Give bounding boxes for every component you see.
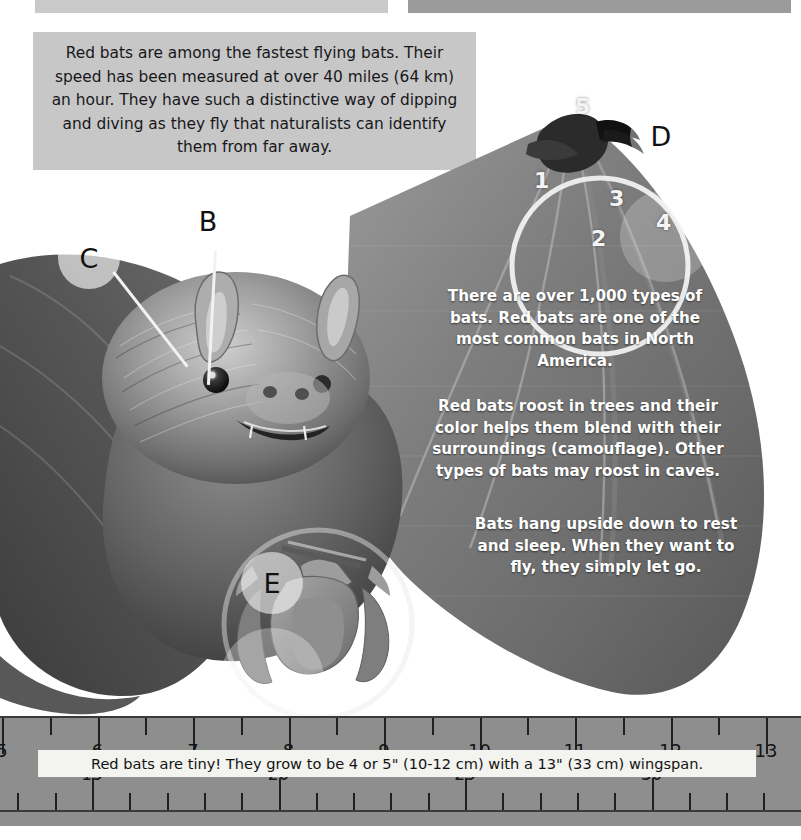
ruler-top-edge bbox=[0, 716, 801, 718]
ruler-inch-minor-tick bbox=[527, 718, 529, 735]
ruler-caption-text: Red bats are tiny! They grow to be 4 or … bbox=[91, 755, 703, 772]
ruler-inch-minor-tick bbox=[718, 718, 720, 735]
ruler-inch-label: 5 bbox=[0, 740, 8, 761]
ruler-cm-minor-tick bbox=[316, 793, 318, 810]
ruler-cm-minor-tick bbox=[17, 793, 19, 810]
ruler-cm-minor-tick bbox=[689, 793, 691, 810]
ruler-cm-minor-tick bbox=[428, 793, 430, 810]
callout-label-e: E bbox=[263, 568, 280, 599]
ruler-inch-minor-tick bbox=[241, 718, 243, 735]
wing-text-block-2: Red bats roost in trees and their color … bbox=[428, 396, 728, 483]
callout-bubble-c[interactable]: C bbox=[58, 227, 120, 289]
callout-bubble-b[interactable]: B bbox=[177, 190, 239, 252]
ruler-inch-minor-tick bbox=[623, 718, 625, 735]
wing-digit-2: 2 bbox=[591, 226, 606, 251]
top-bar-right bbox=[408, 0, 791, 13]
callout-label-d: D bbox=[651, 121, 672, 152]
ruler-cm-minor-tick bbox=[204, 793, 206, 810]
ruler-inch-label: 13 bbox=[755, 740, 778, 761]
ruler-cm-minor-tick bbox=[726, 793, 728, 810]
ruler-cm-minor-tick bbox=[167, 793, 169, 810]
callout-label-c: C bbox=[80, 243, 99, 274]
ruler-cm-minor-tick bbox=[353, 793, 355, 810]
ruler-caption-bar: Red bats are tiny! They grow to be 4 or … bbox=[38, 750, 756, 777]
ruler-cm-minor-tick bbox=[55, 793, 57, 810]
wing-text-block-3: Bats hang upside down to rest and sleep.… bbox=[470, 514, 742, 579]
wing-digit-3: 3 bbox=[609, 186, 624, 211]
wing-digit-5: 5 bbox=[575, 94, 590, 119]
ruler-inch-minor-tick bbox=[432, 718, 434, 735]
top-bar-left bbox=[35, 0, 388, 13]
wing-digit-4: 4 bbox=[656, 210, 671, 235]
callout-bubble-e[interactable]: E bbox=[241, 552, 303, 614]
ruler-inch-minor-tick bbox=[145, 718, 147, 735]
ruler-cm-minor-tick bbox=[129, 793, 131, 810]
ruler-inch-minor-tick bbox=[336, 718, 338, 735]
callout-label-b: B bbox=[199, 206, 218, 237]
ruler-cm-minor-tick bbox=[763, 793, 765, 810]
ruler-cm-minor-tick bbox=[390, 793, 392, 810]
wing-text-block-1: There are over 1,000 types of bats. Red … bbox=[430, 286, 720, 373]
wing-digit-1: 1 bbox=[534, 168, 549, 193]
ruler-bottom-edge bbox=[0, 810, 801, 812]
ruler-cm-minor-tick bbox=[577, 793, 579, 810]
callout-bubble-d[interactable]: D bbox=[630, 105, 692, 167]
ruler-cm-minor-tick bbox=[540, 793, 542, 810]
ruler-cm-minor-tick bbox=[241, 793, 243, 810]
page-root: Red bats are among the fastest flying ba… bbox=[0, 0, 801, 840]
ruler-cm-minor-tick bbox=[614, 793, 616, 810]
ruler-inch-minor-tick bbox=[50, 718, 52, 735]
ruler-cm-minor-tick bbox=[502, 793, 504, 810]
